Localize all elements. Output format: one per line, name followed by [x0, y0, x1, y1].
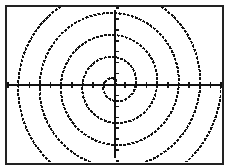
polar-spiral-plot	[0, 0, 228, 168]
graph-screen	[0, 0, 228, 168]
